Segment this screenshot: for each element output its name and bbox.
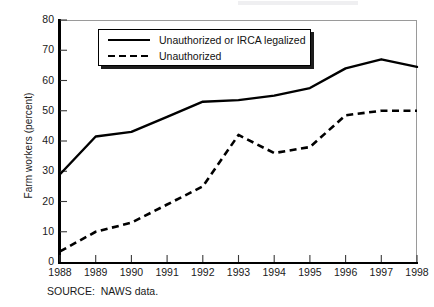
- y-tick-label: 50: [28, 105, 54, 116]
- y-tick-label: 10: [28, 226, 54, 237]
- legend-swatch-dashed-line-icon: [108, 50, 150, 62]
- x-tick-label: 1998: [395, 267, 434, 278]
- y-tick-label: 30: [28, 165, 54, 176]
- legend-swatch-solid-line-icon: [108, 34, 150, 46]
- source-note: SOURCE: NAWS data.: [47, 285, 158, 297]
- y-tick-label: 70: [28, 44, 54, 55]
- y-tick-label: 40: [28, 135, 54, 146]
- y-tick-label: 20: [28, 196, 54, 207]
- legend-label-unauthorized: Unauthorized: [159, 50, 221, 62]
- y-tick-label: 60: [28, 75, 54, 86]
- legend-item-unauthorized-or-irca-legalized: Unauthorized or IRCA legalized: [99, 32, 306, 48]
- chart-figure: Farm workers (percent) 01020304050607080…: [0, 0, 434, 307]
- legend-label-unauthorized-or-irca-legalized: Unauthorized or IRCA legalized: [159, 34, 306, 46]
- legend-item-unauthorized: Unauthorized: [99, 48, 221, 64]
- scan-artifact: [238, 1, 358, 5]
- y-axis-line: [58, 19, 61, 264]
- x-axis-line: [58, 262, 418, 265]
- chart-legend: Unauthorized or IRCA legalized Unauthori…: [98, 29, 311, 66]
- y-tick-label: 80: [28, 14, 54, 25]
